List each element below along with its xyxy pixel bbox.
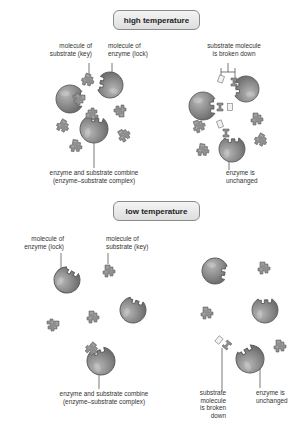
substrate-molecule xyxy=(116,127,132,143)
label-low-enzyme-unchanged: enzyme is unchanged xyxy=(256,389,301,404)
substrate-fragment xyxy=(215,336,223,345)
enzyme-molecule xyxy=(200,256,228,286)
substrate-fragment xyxy=(223,129,229,137)
enzyme-molecule xyxy=(252,299,278,323)
label-low-substrate-broken-down: substrate molecule is broken down xyxy=(184,389,226,419)
label-low-enzyme-lock: molecule of enzyme (lock) xyxy=(6,235,64,250)
substrate-molecule xyxy=(253,132,269,148)
substrate-molecule xyxy=(69,139,83,153)
enzyme-molecule xyxy=(97,70,125,100)
enzyme-temperature-diagram: high temperature low temperature molecul… xyxy=(0,0,301,433)
label-high-enzyme-substrate-complex: enzyme and substrate combine (enzyme–sub… xyxy=(30,169,158,184)
substrate-fragment xyxy=(222,340,232,350)
enzyme-molecules xyxy=(49,70,278,379)
label-high-enzyme-lock: molecule of enzyme (lock) xyxy=(108,42,164,57)
substrate-molecule xyxy=(114,105,126,117)
substrate-molecule xyxy=(47,319,59,331)
label-low-enzyme-substrate-complex: enzyme and substrate combine (enzyme–sub… xyxy=(40,390,168,405)
enzyme-molecule xyxy=(49,264,84,298)
substrate-molecule xyxy=(103,265,115,277)
header-high-temperature: high temperature xyxy=(113,10,200,30)
enzyme-molecule xyxy=(235,76,259,102)
enzyme-molecule xyxy=(232,342,269,378)
substrate-fragment xyxy=(228,104,233,111)
enzyme-molecule xyxy=(116,295,149,327)
substrate-molecule xyxy=(87,311,99,323)
substrate-molecule xyxy=(274,340,286,352)
substrate-fragment xyxy=(217,103,223,111)
label-high-substrate-key: molecule of substrate (key) xyxy=(36,42,92,57)
substrate-fragment xyxy=(216,120,223,128)
substrate-molecule xyxy=(191,118,206,133)
substrate-molecule xyxy=(80,72,95,87)
header-low-temperature: low temperature xyxy=(113,201,200,221)
enzyme-molecule xyxy=(219,138,245,162)
bound-substrate-molecule xyxy=(86,108,98,120)
label-high-enzyme-unchanged: enzyme is unchanged xyxy=(226,169,276,184)
substrate-molecule xyxy=(251,113,263,125)
substrate-fragments xyxy=(215,75,237,350)
enzyme-molecule xyxy=(189,92,215,120)
substrate-molecule xyxy=(201,307,213,319)
substrate-fragment xyxy=(217,75,224,83)
substrate-molecule xyxy=(196,143,210,157)
label-high-substrate-broken-down: substrate molecule is broken down xyxy=(190,42,278,57)
substrate-molecule xyxy=(55,118,71,134)
substrate-molecule xyxy=(258,262,270,274)
label-low-substrate-key: molecule of substrate (key) xyxy=(106,235,166,250)
